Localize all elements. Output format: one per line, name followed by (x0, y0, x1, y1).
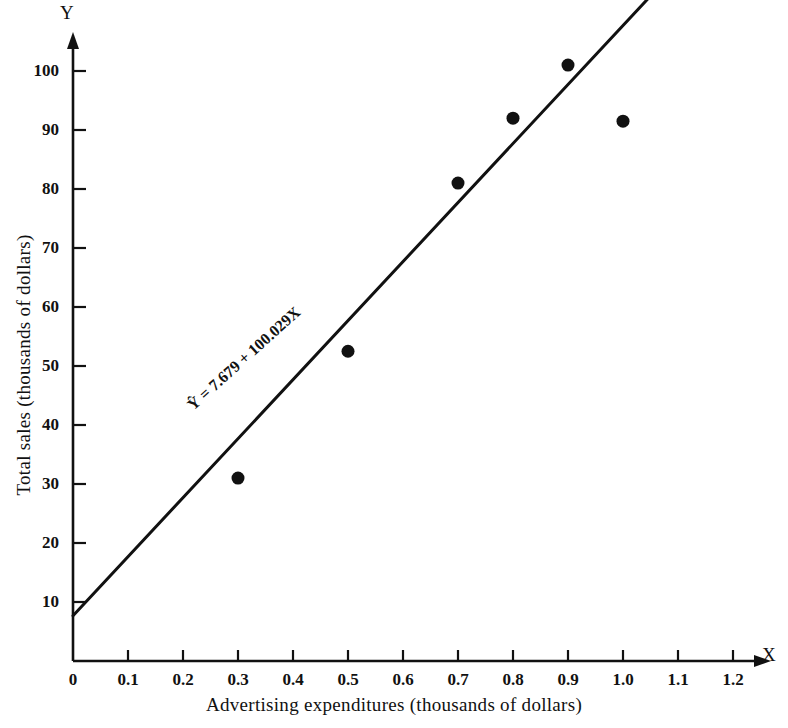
scatter-plot-figure: Y X 102030405060708090100 00.10.20.30.40… (0, 0, 788, 728)
x-tick-label: 0.1 (117, 670, 138, 690)
x-tick-label: 0.4 (282, 670, 303, 690)
x-axis-title: Advertising expenditures (thousands of d… (0, 694, 788, 716)
data-point (507, 112, 520, 125)
x-axis-letter: X (762, 644, 776, 666)
y-axis-letter: Y (60, 2, 74, 24)
y-tick-label: 90 (5, 120, 59, 140)
data-point (562, 59, 575, 72)
axes-group (67, 32, 771, 667)
data-point (232, 472, 245, 485)
x-tick-label: 0 (69, 670, 78, 690)
data-point (342, 345, 355, 358)
x-tick-label: 0.7 (447, 670, 468, 690)
x-tick-label: 0.3 (227, 670, 248, 690)
y-tick-label: 10 (5, 592, 59, 612)
x-tick-label: 1.0 (612, 670, 633, 690)
data-point (617, 115, 630, 128)
y-tick-label: 100 (5, 61, 59, 81)
y-axis-title: Total sales (thousands of dollars) (13, 155, 35, 575)
regression-line (73, 0, 651, 616)
data-point (452, 177, 465, 190)
plot-canvas (0, 0, 788, 728)
axis-ticks-group (73, 71, 733, 661)
x-tick-label: 1.2 (722, 670, 743, 690)
x-tick-label: 0.8 (502, 670, 523, 690)
x-tick-label: 0.2 (172, 670, 193, 690)
x-tick-label: 0.9 (557, 670, 578, 690)
x-tick-label: 1.1 (667, 670, 688, 690)
x-tick-label: 0.5 (337, 670, 358, 690)
data-points-group (232, 59, 630, 485)
x-tick-label: 0.6 (392, 670, 413, 690)
